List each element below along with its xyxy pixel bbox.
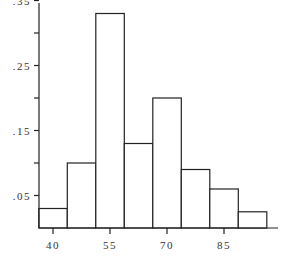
x-axis-ticks: 40557085 bbox=[46, 228, 231, 251]
y-axis-ticks: .05.15.25.35 bbox=[13, 0, 39, 202]
histogram-bars bbox=[39, 14, 267, 229]
y-tick-label: .05 bbox=[13, 190, 31, 202]
histogram-bar bbox=[181, 170, 210, 229]
x-tick-label: 85 bbox=[217, 239, 231, 251]
y-tick-label: .35 bbox=[13, 0, 31, 7]
histogram-bar bbox=[67, 163, 96, 228]
histogram-bar bbox=[210, 189, 239, 228]
y-tick-label: .15 bbox=[13, 125, 31, 137]
histogram-bar bbox=[96, 14, 125, 229]
x-tick-label: 40 bbox=[46, 239, 60, 251]
y-tick-label: .25 bbox=[13, 60, 31, 72]
x-tick-label: 70 bbox=[160, 239, 174, 251]
x-tick-label: 55 bbox=[103, 239, 117, 251]
histogram-bar bbox=[238, 212, 266, 228]
histogram-bar bbox=[124, 144, 153, 229]
histogram-chart: .05.15.25.35 40557085 bbox=[0, 0, 282, 257]
histogram-bar bbox=[153, 98, 182, 228]
histogram-bar bbox=[39, 209, 68, 229]
